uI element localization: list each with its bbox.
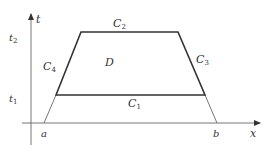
region-label-d: D: [104, 56, 114, 69]
curve-label-c2: C2: [113, 17, 126, 31]
curve-label-c3: C3: [196, 53, 209, 67]
left-extension-line: [44, 95, 56, 123]
tick-label-t1: t1: [9, 93, 18, 106]
tick-label-b: b: [213, 128, 219, 139]
curve-label-c1: C1: [128, 97, 141, 111]
y-axis-label: t: [36, 13, 41, 26]
curve-label-c4: C4: [43, 60, 56, 74]
diagram-canvas: t x a b t2 t1 D C2 C1 C3 C4: [0, 0, 269, 153]
x-axis-label: x: [250, 127, 257, 140]
tick-label-t2: t2: [9, 32, 18, 45]
region-boundary: [56, 32, 205, 95]
tick-label-a: a: [41, 128, 47, 139]
right-extension-line: [205, 95, 217, 123]
